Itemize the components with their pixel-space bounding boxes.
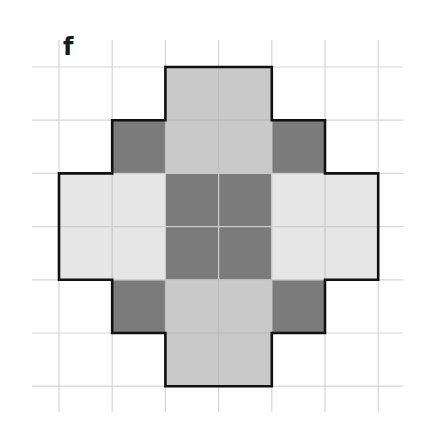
cell-dark [165, 173, 218, 226]
cell-light [325, 227, 378, 280]
cell-medium [165, 280, 218, 333]
cell-dark [112, 280, 165, 333]
cell-dark [219, 173, 272, 226]
cell-medium [219, 120, 272, 173]
cell-medium [219, 280, 272, 333]
cell-medium [165, 120, 218, 173]
cell-medium [219, 333, 272, 386]
cross-shape-grid-diagram [0, 0, 430, 435]
cell-light [112, 173, 165, 226]
cell-dark [272, 120, 325, 173]
cell-light [112, 227, 165, 280]
cell-medium [165, 67, 218, 120]
cell-light [59, 227, 112, 280]
cell-dark [272, 280, 325, 333]
cell-light [59, 173, 112, 226]
cell-light [272, 227, 325, 280]
cell-dark [112, 120, 165, 173]
cell-dark [219, 227, 272, 280]
inner-grid-lines [59, 67, 378, 386]
cell-medium [219, 67, 272, 120]
cell-light [272, 173, 325, 226]
cell-dark [165, 227, 218, 280]
cell-light [325, 173, 378, 226]
cell-medium [165, 333, 218, 386]
